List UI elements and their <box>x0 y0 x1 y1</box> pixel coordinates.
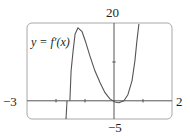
y-max-label: 20 <box>106 6 119 19</box>
x-max-label: 2 <box>176 95 183 108</box>
function-label: y = f′(x) <box>31 36 70 48</box>
plot-area <box>0 0 190 136</box>
y-min-label: −5 <box>108 121 122 134</box>
curve-f-prime <box>70 24 139 103</box>
curve-left-tail <box>66 101 67 119</box>
x-min-label: −3 <box>3 95 17 108</box>
